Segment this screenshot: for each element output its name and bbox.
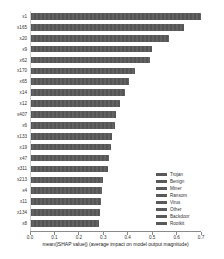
y-tick-label: x11 [0,199,30,204]
y-tick-label: x47 [0,156,30,161]
legend-row: Ransom [156,192,189,199]
y-tick-label: x19 [0,145,30,150]
legend-row: Benign [156,178,189,185]
bar [30,24,184,31]
bar [30,35,169,42]
legend-label: Backdoor [170,214,189,219]
legend-row: Other [156,206,189,213]
bar [30,155,109,162]
y-tick-label: x311 [0,166,30,171]
y-tick-label: x133 [0,134,30,139]
x-tick-label: 0.1 [47,235,61,240]
x-tick-label: 0.7 [194,235,208,240]
y-tick-label: x407 [0,112,30,117]
shap-summary-bar-chart: x1x165x20x9x62x170x65x14x12x407x6x133x19… [0,0,224,259]
bar [30,78,129,85]
bar [30,166,108,173]
x-tick-label: 0.6 [170,235,184,240]
bar [30,57,150,64]
y-tick-label: x14 [0,90,30,95]
y-tick-label: x8 [0,221,30,226]
legend-label: Virus [170,200,180,205]
y-tick-label: x134 [0,210,30,215]
legend-swatch [156,173,167,176]
y-tick-label: x4 [0,188,30,193]
legend-swatch [156,180,167,183]
x-axis-label: mean(|SHAP value|) (average impact on mo… [25,242,206,248]
bar [30,89,125,96]
x-tick-label: 0.2 [72,235,86,240]
y-tick-label: x165 [0,25,30,30]
legend-row: Miner [156,185,189,192]
y-tick-label: x12 [0,101,30,106]
legend-swatch [156,215,167,218]
legend-row: Backdoor [156,213,189,220]
y-tick-label: x213 [0,177,30,182]
bar [30,122,115,129]
x-tick-label: 0.0 [23,235,37,240]
legend-label: Benign [170,179,184,184]
bar [30,177,103,184]
y-tick-label: x62 [0,58,30,63]
legend-label: Trojan [170,172,183,177]
legend-swatch [156,201,167,204]
legend-row: Trojan [156,171,189,178]
legend-label: Ransom [170,193,187,198]
y-tick-label: x65 [0,79,30,84]
x-tick-label: 0.4 [121,235,135,240]
y-tick-label: x1 [0,14,30,19]
legend-row: Virus [156,199,189,206]
bar [30,144,111,151]
bar [30,133,112,140]
legend-swatch [156,194,167,197]
bar [30,100,120,107]
bar [30,209,100,216]
legend: TrojanBenignMinerRansomVirusOtherBackdoo… [156,171,189,227]
legend-label: Rootkit [170,221,184,226]
y-axis-line [30,11,31,231]
x-tick-label: 0.3 [96,235,110,240]
y-tick-label: x9 [0,47,30,52]
y-tick-label: x20 [0,36,30,41]
bar [30,68,135,75]
bar [30,13,201,20]
legend-label: Other [170,207,182,212]
y-tick-label: x170 [0,68,30,73]
bar [30,187,102,194]
bar [30,111,116,118]
legend-swatch [156,187,167,190]
legend-row: Rootkit [156,220,189,227]
legend-swatch [156,208,167,211]
bar [30,198,101,205]
bar [30,220,99,227]
x-tick-label: 0.5 [145,235,159,240]
bar [30,46,152,53]
legend-label: Miner [170,186,182,191]
legend-swatch [156,222,167,225]
y-tick-label: x6 [0,123,30,128]
